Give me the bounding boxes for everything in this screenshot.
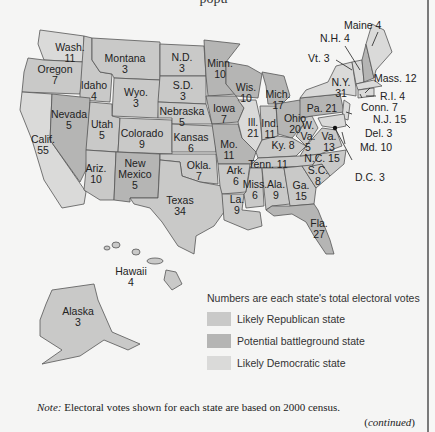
label-nc: N.C. 15 xyxy=(304,153,340,164)
legend: Numbers are each state's total electoral… xyxy=(207,292,422,370)
legend-item-democratic: Likely Democratic state xyxy=(207,356,422,370)
state-hawaii-3 xyxy=(132,249,140,255)
label-miss: Miss.6 xyxy=(243,179,268,201)
label-nevada: Nevada5 xyxy=(51,109,87,131)
label-ky: Ky. 8 xyxy=(271,140,294,151)
label-mich: Mich.17 xyxy=(265,89,290,111)
state-hawaii-2 xyxy=(112,242,120,248)
label-wis: Wis.10 xyxy=(236,82,256,104)
state-hawaii-4 xyxy=(147,258,163,264)
state-md-del xyxy=(318,114,346,128)
label-colorado: Colorado9 xyxy=(121,128,164,150)
callout-dc: D.C. 3 xyxy=(355,172,385,183)
callout-maine: Maine 4 xyxy=(344,20,381,31)
label-sc: S.C.8 xyxy=(308,165,328,187)
label-idaho: Idaho4 xyxy=(81,80,107,102)
label-texas: Texas34 xyxy=(166,195,193,217)
callout-md: Md. 10 xyxy=(360,142,392,153)
label-okla: Okla.7 xyxy=(187,160,212,182)
label-alaska: Alaska3 xyxy=(62,306,94,328)
label-wash: Wash.11 xyxy=(55,42,84,64)
label-fla: Fla.27 xyxy=(310,218,328,240)
label-hawaii: Hawaii4 xyxy=(115,266,147,288)
continued-label: (continued) xyxy=(364,416,415,428)
label-calif: Calif.55 xyxy=(31,134,55,156)
swatch-democratic xyxy=(207,356,231,370)
label-utah: Utah5 xyxy=(91,119,113,141)
label-ind: Ind.11 xyxy=(261,118,279,140)
note: Note: Electoral votes shown for each sta… xyxy=(37,401,340,413)
callout-vt: Vt. 3 xyxy=(308,53,330,64)
label-sd: S.D.3 xyxy=(173,80,193,102)
label-pa: Pa. 21 xyxy=(307,103,337,114)
label-tenn: Tenn. 11 xyxy=(248,159,288,170)
label-mo: Mo.11 xyxy=(220,139,238,161)
label-nd: N.D.3 xyxy=(172,52,193,74)
state-hawaii-5 xyxy=(164,270,182,290)
swatch-republican xyxy=(207,312,231,326)
page: popu xyxy=(0,0,429,432)
label-wva: W. Va.5 xyxy=(299,120,317,153)
label-minn: Minn.10 xyxy=(207,58,233,80)
label-va: Va.13 xyxy=(322,131,337,153)
legend-item-battleground: Potential battleground state xyxy=(207,334,422,348)
legend-item-republican: Likely Republican state xyxy=(207,312,422,326)
legend-caption: Numbers are each state's total electoral… xyxy=(207,292,422,304)
label-oregon: Oregon7 xyxy=(37,64,72,86)
label-ariz: Ariz.10 xyxy=(86,163,107,185)
label-nebraska: Nebraska5 xyxy=(160,106,205,128)
callout-nj: N.J. 15 xyxy=(373,114,406,125)
label-nm: New Mexico5 xyxy=(111,158,159,191)
label-ala: Ala.9 xyxy=(267,179,285,201)
callout-conn: Conn. 7 xyxy=(361,102,398,113)
label-wyo: Wyo.3 xyxy=(124,87,148,109)
callout-del: Del. 3 xyxy=(365,128,392,139)
swatch-battleground xyxy=(207,334,231,348)
callout-mass: Mass. 12 xyxy=(374,73,417,84)
label-ill: Ill.21 xyxy=(247,117,259,139)
label-montana: Montana3 xyxy=(105,53,146,75)
label-iowa: Iowa7 xyxy=(213,103,235,125)
callout-nh: N.H. 4 xyxy=(320,33,350,44)
label-ny: N.Y.31 xyxy=(331,77,350,99)
state-hawaii-1 xyxy=(104,246,110,250)
label-kansas: Kansas6 xyxy=(173,132,208,154)
state-conn-ri xyxy=(358,88,374,98)
